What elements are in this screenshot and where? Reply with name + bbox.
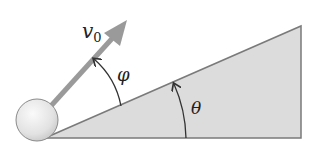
phi-label: φ xyxy=(117,64,130,85)
ball xyxy=(16,99,58,141)
incline-diagram: v0 φ θ xyxy=(0,0,312,148)
theta-label: θ xyxy=(191,98,201,118)
velocity-label: v0 xyxy=(82,19,102,45)
